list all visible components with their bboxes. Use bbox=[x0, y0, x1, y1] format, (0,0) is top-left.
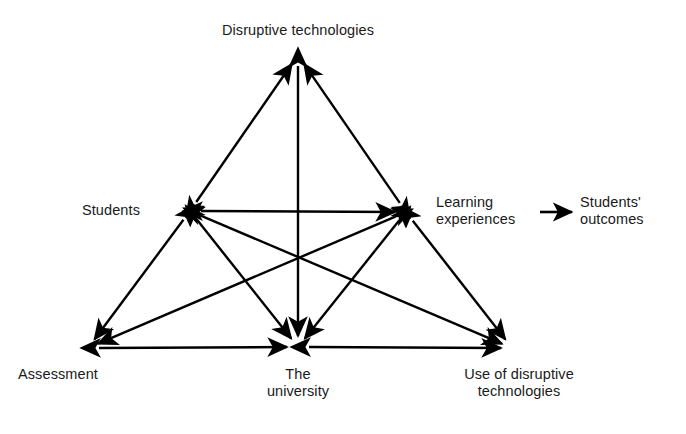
edge-students-university bbox=[197, 220, 291, 339]
edge-students-assessment bbox=[95, 220, 184, 339]
node-label-students: Students bbox=[82, 202, 140, 219]
node-label-students-outcomes: Students' outcomes bbox=[580, 194, 644, 228]
edge-students-disruptive bbox=[196, 64, 291, 202]
edge-university-use bbox=[309, 347, 501, 348]
diagram-canvas: Disruptive technologies Students Learnin… bbox=[0, 0, 686, 434]
edge-assessment-university bbox=[99, 347, 287, 348]
edge-learning-use bbox=[413, 221, 505, 340]
node-label-assessment: Assessment bbox=[18, 366, 98, 383]
edge-learning-disruptive bbox=[304, 64, 400, 203]
node-label-disruptive-technologies: Disruptive technologies bbox=[222, 22, 374, 39]
node-label-the-university: The university bbox=[267, 366, 329, 400]
node-label-learning-experiences: Learning experiences bbox=[436, 194, 515, 228]
node-label-use-of-disruptive-technologies: Use of disruptive technologies bbox=[464, 366, 574, 400]
